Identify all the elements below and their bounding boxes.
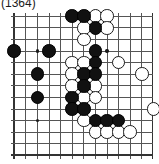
black-stone[interactable]	[77, 102, 91, 116]
black-stone[interactable]	[77, 9, 91, 23]
go-diagram-figure: (1364)	[0, 0, 159, 164]
black-stone[interactable]	[31, 67, 45, 81]
white-stone[interactable]	[123, 125, 137, 139]
black-stone[interactable]	[89, 21, 103, 35]
go-board-surface[interactable]	[11, 13, 153, 159]
black-stone[interactable]	[7, 44, 21, 58]
white-stone[interactable]	[147, 102, 159, 116]
go-board[interactable]	[11, 13, 153, 159]
black-stone[interactable]	[42, 44, 56, 58]
white-stone[interactable]	[100, 21, 114, 35]
black-stone[interactable]	[77, 79, 91, 93]
figure-caption: (1364)	[1, 0, 36, 10]
white-stone[interactable]	[77, 33, 91, 47]
white-stone[interactable]	[135, 67, 149, 81]
black-stone[interactable]	[89, 67, 103, 81]
hoshi-point	[105, 49, 108, 52]
hoshi-point	[36, 49, 39, 52]
